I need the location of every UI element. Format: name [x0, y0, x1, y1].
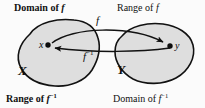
- arrow-label-f: f: [96, 14, 99, 26]
- set-y-blob: [115, 24, 194, 84]
- caption-domain-of-f: Domain of f: [14, 3, 65, 13]
- element-x-dot: [45, 42, 50, 47]
- set-y-label: Y: [117, 63, 125, 76]
- caption-domain-of-f-inverse-exponent: −1: [161, 92, 168, 99]
- set-x-label: X: [18, 64, 27, 77]
- diagram-canvas: [0, 0, 205, 108]
- caption-domain-of-f-inverse: Domain of f−1: [113, 93, 168, 104]
- element-y-label: y: [175, 41, 179, 51]
- caption-range-of-f-inverse: Range of f−1: [6, 93, 57, 104]
- element-x-label: x: [39, 40, 43, 50]
- caption-domain-of-f-symbol: f: [61, 2, 64, 13]
- caption-range-of-f-symbol: f: [156, 2, 159, 13]
- element-y-dot: [167, 43, 172, 48]
- caption-range-of-f-text: Range of: [117, 2, 156, 13]
- caption-range-of-f-inverse-exponent: −1: [50, 92, 57, 99]
- arrow-label-f-inverse: f−1: [83, 50, 94, 62]
- caption-range-of-f: Range of f: [117, 3, 159, 13]
- caption-domain-of-f-inverse-text: Domain of: [113, 93, 159, 104]
- inverse-function-diagram: Domain of f Range of f Range of f−1 Doma…: [0, 0, 205, 108]
- arrow-label-f-symbol: f: [96, 14, 99, 26]
- caption-range-of-f-inverse-text: Range of: [6, 93, 47, 104]
- caption-domain-of-f-text: Domain of: [14, 2, 61, 13]
- arrow-label-f-inverse-exponent: −1: [86, 49, 93, 57]
